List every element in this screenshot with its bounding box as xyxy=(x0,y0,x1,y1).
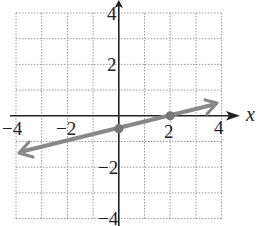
x-axis-label: x xyxy=(245,103,255,125)
tick-x-2: 2 xyxy=(164,121,174,142)
point-x-intercept xyxy=(166,111,175,120)
tick-y-neg2: −2 xyxy=(98,157,118,178)
tick-x-neg4: −4 xyxy=(2,118,23,139)
axes xyxy=(10,0,240,226)
tick-y-neg4: −4 xyxy=(98,208,119,226)
tick-y-4: 4 xyxy=(107,3,117,24)
point-y-intercept xyxy=(114,124,123,133)
tick-x-neg2: −2 xyxy=(56,118,76,139)
tick-x-4: 4 xyxy=(214,117,224,138)
tick-y-2: 2 xyxy=(107,54,117,75)
coordinate-plane: −4 −2 2 4 4 2 −2 −4 x xyxy=(0,0,265,226)
